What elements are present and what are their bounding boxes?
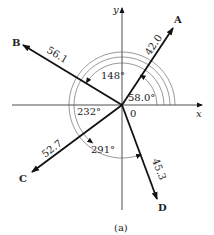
vector-b-label: B	[12, 37, 20, 48]
angle-b-label: 148°	[101, 70, 125, 81]
vector-d-magnitude: 45.3	[150, 157, 168, 182]
vector-d	[122, 105, 157, 199]
figure-caption: (a)	[114, 222, 128, 233]
vector-diagram: A B C D 42.0 56.1 52.7 45.3 58.0° 148° 2…	[0, 0, 214, 235]
x-axis-label: x	[196, 108, 202, 119]
vector-a-label: A	[173, 14, 182, 25]
angle-c-label: 232°	[77, 106, 101, 117]
vector-c-label: C	[19, 173, 27, 184]
y-axis-label: y	[112, 4, 119, 15]
angle-a-label: 58.0°	[128, 92, 155, 103]
vector-b-magnitude: 56.1	[45, 44, 70, 65]
angle-d-label: 291°	[91, 144, 115, 155]
vector-d-label: D	[158, 202, 167, 213]
origin-label: 0	[130, 108, 136, 119]
